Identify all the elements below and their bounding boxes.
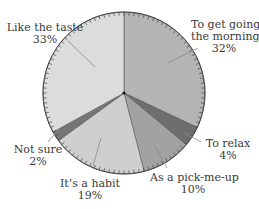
label-habit: It’s a habit 19% [55, 178, 125, 202]
label-value: 4% [198, 150, 258, 162]
label-pickme: As a pick-me-up 10% [150, 172, 236, 196]
label-value: 32% [191, 43, 257, 55]
label-relax: To relax 4% [198, 138, 258, 162]
label-value: 19% [55, 190, 125, 202]
label-value: 10% [150, 184, 236, 196]
label-notsure: Not sure 2% [13, 144, 63, 168]
label-get-going: To get going in the morning 32% [191, 19, 257, 55]
label-value: 33% [5, 34, 85, 46]
label-value: 2% [13, 156, 63, 168]
label-taste: Like the taste 33% [5, 22, 85, 46]
center-dot [122, 91, 125, 94]
